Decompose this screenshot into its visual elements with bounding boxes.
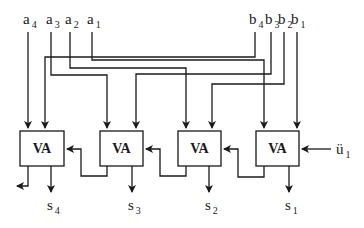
block-label-va3: VA: [100, 142, 143, 156]
block-label-va1: VA: [256, 142, 299, 156]
wire-b2: [212, 32, 284, 128]
carry-out-wire: [17, 166, 28, 186]
label-b1: b1: [291, 12, 306, 30]
label-s1: s1: [285, 198, 298, 216]
wire-b4: [45, 32, 255, 128]
label-s2: s2: [205, 198, 218, 216]
label-a4: a4: [23, 12, 37, 30]
label-a1: a1: [87, 12, 101, 30]
label-a2: a2: [65, 12, 79, 30]
wire-a2: [70, 32, 186, 128]
label-s3: s3: [128, 198, 141, 216]
wire-a1: [92, 32, 264, 128]
wire-a3: [51, 32, 107, 128]
label-a3: a3: [46, 12, 60, 30]
label-s4: s4: [47, 198, 60, 216]
label-b4: b4: [249, 12, 264, 30]
block-label-va2: VA: [178, 142, 221, 156]
ripple-carry-adder-diagram: [0, 0, 364, 228]
label-carry-in: ü1: [336, 142, 351, 160]
wire-b3: [136, 32, 271, 128]
block-label-va4: VA: [20, 142, 64, 156]
